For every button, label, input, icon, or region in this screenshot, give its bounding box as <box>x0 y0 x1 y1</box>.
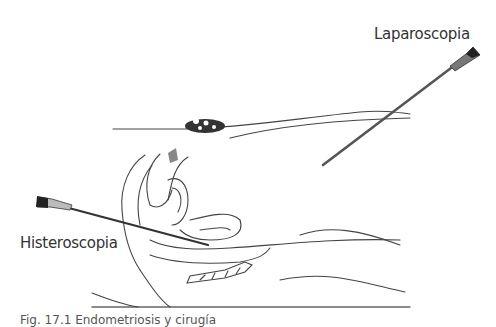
uterus-cavity <box>200 228 230 230</box>
uterus-body <box>180 214 241 240</box>
lower-curve-2 <box>280 276 405 292</box>
laparoscopy-label: Laparoscopia <box>374 25 470 43</box>
laparoscope-instrument <box>323 47 480 165</box>
lower-curve <box>300 230 400 245</box>
figure-caption: Fig. 17.1 Endometriosis y cirugía <box>20 313 216 327</box>
cervix-mark <box>168 148 178 163</box>
vaginal-canal <box>150 240 400 249</box>
endometriosis-lesion <box>185 118 225 133</box>
sacral-segments <box>187 262 252 283</box>
rectum <box>150 248 270 263</box>
pubic-inner <box>138 165 152 225</box>
hysteroscopy-label: Histeroscopia <box>20 234 118 252</box>
pubic-outline <box>122 155 145 270</box>
uterus-inner <box>172 188 181 212</box>
